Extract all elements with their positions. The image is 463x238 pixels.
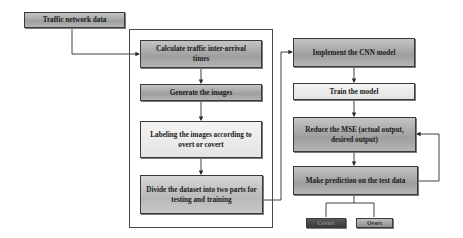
step-train-model: Train the model — [293, 83, 415, 100]
node-label: Implement the CNN model — [313, 48, 396, 58]
node-label: Overt — [367, 218, 382, 228]
node-label: Make prediction on the test data — [306, 176, 406, 186]
output-overt: Overt — [356, 218, 393, 228]
node-label: Covert — [317, 218, 335, 228]
step-implement-cnn: Implement the CNN model — [293, 38, 415, 67]
step-divide-dataset: Divide the dataset into two parts for te… — [140, 175, 263, 214]
node-label: Generate the images — [170, 88, 233, 98]
node-label: Train the model — [330, 87, 379, 97]
node-label: Divide the dataset into two parts for te… — [146, 185, 257, 205]
step-generate-images: Generate the images — [140, 84, 262, 101]
input-node-traffic-network-data: Traffic network data — [24, 12, 125, 28]
step-calculate-inter-arrival: Calculate traffic inter-arrival times — [140, 40, 262, 68]
node-label: Calculate traffic inter-arrival times — [147, 44, 255, 64]
step-reduce-mse: Reduce the MSE (actual output, desired o… — [293, 117, 416, 152]
step-labeling-images: Labeling the images according to overt o… — [140, 121, 262, 158]
node-label: Traffic network data — [43, 15, 107, 25]
node-label: Labeling the images according to overt o… — [147, 130, 255, 150]
node-label: Reduce the MSE (actual output, desired o… — [298, 125, 411, 145]
output-covert: Covert — [306, 218, 346, 228]
step-make-prediction: Make prediction on the test data — [293, 166, 418, 195]
